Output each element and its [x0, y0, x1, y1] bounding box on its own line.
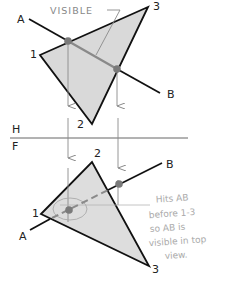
top-line-ab-right: [117, 69, 160, 93]
front-label-2: 2: [94, 147, 101, 160]
top-label-3: 3: [153, 0, 160, 13]
front-label-3: 3: [152, 263, 159, 276]
front-label-a: A: [19, 230, 27, 243]
visibility-diagram: VISIBLE 1 2 3 A B H F 1 2 3 A B: [0, 0, 236, 286]
front-line-ab-a-end: [30, 219, 50, 230]
fold-label-f: F: [12, 140, 18, 153]
top-label-a: A: [17, 13, 25, 26]
top-piercing-dot-1: [64, 37, 72, 45]
top-line-ab-left: [29, 19, 68, 41]
top-label-2: 2: [77, 118, 84, 131]
top-view: VISIBLE 1 2 3 A B: [17, 0, 175, 131]
front-piercing-dot-1: [65, 206, 73, 214]
note-line-1: Hits AB: [155, 192, 188, 204]
front-piercing-dot-2: [115, 180, 123, 188]
top-plane-123: [40, 7, 148, 124]
note-line-3: so AB is: [150, 222, 186, 234]
front-label-b: B: [166, 158, 174, 171]
fold-line-hf: H F: [10, 118, 188, 168]
top-label-1: 1: [30, 48, 37, 61]
note-line-5: view.: [164, 250, 187, 262]
note-line-4: visible in top: [148, 234, 206, 248]
visible-callout: VISIBLE: [50, 5, 93, 16]
top-label-b: B: [167, 88, 175, 101]
top-piercing-dot-2: [113, 65, 121, 73]
fold-label-h: H: [12, 123, 20, 136]
front-label-1: 1: [32, 207, 39, 220]
note-line-2: before 1-3: [149, 207, 196, 220]
handwritten-note: Hits AB before 1-3 so AB is visible in t…: [145, 191, 207, 262]
